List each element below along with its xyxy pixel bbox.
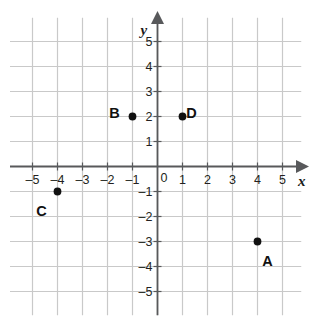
data-point-b[interactable]: [129, 113, 137, 121]
data-point-d[interactable]: [179, 113, 187, 121]
point-label-b: B: [109, 106, 119, 121]
y-axis-tick-label: 1: [146, 136, 153, 149]
y-axis-tick-label: –2: [139, 211, 153, 224]
x-axis-tick-label: 4: [254, 174, 261, 187]
x-axis-tick-label: –4: [51, 174, 65, 187]
x-axis-tick-label: 5: [279, 174, 286, 187]
y-axis-arrowhead: [151, 11, 164, 24]
y-axis-name: y: [141, 23, 148, 38]
axes: [10, 11, 309, 315]
x-axis-name: x: [298, 174, 306, 189]
y-axis-tick-label: –3: [139, 236, 153, 249]
point-label-c: C: [36, 204, 46, 219]
x-axis-tick-label: 2: [204, 174, 211, 187]
coordinate-plane-figure: –5–4–3–2–11234554321–1–2–3–4–50yxABCD: [0, 0, 318, 329]
y-axis-tick-label: –4: [139, 261, 153, 274]
data-point-c[interactable]: [54, 188, 62, 196]
origin-label: 0: [161, 172, 168, 185]
point-label-d: D: [186, 106, 196, 121]
y-axis-tick-label: 2: [146, 111, 153, 124]
x-axis-tick-label: 1: [179, 174, 186, 187]
y-axis-tick-label: –5: [139, 286, 153, 299]
y-axis-tick-label: –1: [139, 186, 153, 199]
y-axis-tick-label: 3: [146, 86, 153, 99]
x-axis-tick-label: –1: [126, 174, 140, 187]
x-axis-tick-label: –2: [101, 174, 115, 187]
x-axis-tick-label: –5: [26, 174, 40, 187]
point-label-a: A: [262, 254, 272, 269]
y-axis-tick-label: 4: [146, 61, 153, 74]
coordinate-grid-svg: [0, 0, 318, 329]
x-axis-tick-label: –3: [76, 174, 90, 187]
x-axis-tick-label: 3: [229, 174, 236, 187]
data-point-a[interactable]: [254, 238, 262, 246]
x-axis-arrowhead: [296, 160, 309, 173]
